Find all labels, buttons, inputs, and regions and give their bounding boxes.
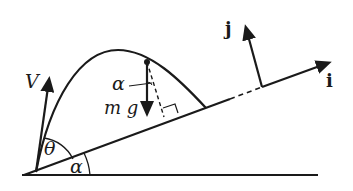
gravity-force-label: m g [104, 99, 138, 117]
velocity-label: V [25, 72, 39, 91]
unit-vector-j-arrow [246, 28, 262, 87]
incline-dashed-extension [230, 87, 262, 99]
unit-vector-i-arrow [262, 63, 328, 87]
unit-i-label: i [326, 72, 333, 90]
unit-j-label: j [225, 20, 232, 38]
projectile-incline-diagram: V θ α α m g i j [0, 0, 353, 191]
diagram-canvas [0, 0, 353, 191]
theta-label: θ [44, 139, 55, 158]
alpha-base-label: α [70, 157, 83, 176]
alpha-angle-arc-base [84, 153, 90, 175]
alpha-leader-line [129, 83, 152, 86]
alpha-gravity-label: α [112, 74, 125, 93]
perpendicular-dashed-line [147, 62, 164, 117]
right-angle-marker [163, 104, 178, 113]
